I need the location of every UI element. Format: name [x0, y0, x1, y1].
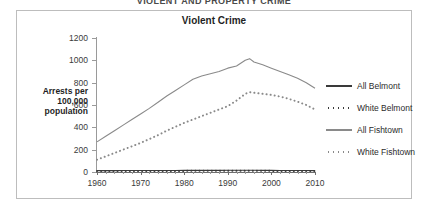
legend-item[interactable]: All Belmont — [326, 78, 426, 94]
x-tick-minor — [210, 172, 211, 174]
series-line — [97, 59, 315, 142]
x-tick-minor — [106, 172, 107, 174]
x-tick-minor — [298, 172, 299, 174]
x-tick-minor — [280, 172, 281, 174]
legend: All BelmontWhite BelmontAll FishtownWhit… — [326, 78, 426, 166]
y-tick-label: 1000 — [48, 56, 88, 64]
x-tick-label: 2000 — [251, 178, 291, 188]
legend-line-sample — [326, 107, 352, 109]
legend-swatch — [326, 126, 352, 134]
y-tick-label: 600 — [48, 101, 88, 109]
x-tick-minor — [245, 172, 246, 174]
y-tick-label: 800 — [48, 79, 88, 87]
legend-line-sample — [326, 151, 352, 153]
legend-label: White Fishtown — [357, 147, 415, 157]
legend-label: White Belmont — [357, 103, 412, 113]
x-tick-minor — [167, 172, 168, 174]
x-tick-major — [228, 172, 229, 175]
y-tick-label: 0 — [48, 168, 88, 176]
x-tick-major — [97, 172, 98, 175]
x-tick-minor — [306, 172, 307, 174]
x-tick-minor — [193, 172, 194, 174]
x-tick-minor — [158, 172, 159, 174]
x-tick-major — [184, 172, 185, 175]
legend-line-sample — [326, 129, 352, 131]
x-tick-minor — [219, 172, 220, 174]
x-tick-label: 1980 — [164, 178, 204, 188]
x-axis-line — [96, 172, 316, 173]
series-lines — [97, 38, 315, 172]
legend-item[interactable]: White Fishtown — [326, 144, 426, 160]
y-tick-label: 1200 — [48, 34, 88, 42]
legend-item[interactable]: All Fishtown — [326, 122, 426, 138]
x-tick-minor — [263, 172, 264, 174]
x-tick-major — [141, 172, 142, 175]
legend-swatch — [326, 148, 352, 156]
series-line — [97, 92, 315, 160]
legend-label: All Fishtown — [357, 125, 403, 135]
x-tick-minor — [289, 172, 290, 174]
legend-line-sample — [326, 85, 352, 87]
x-tick-minor — [149, 172, 150, 174]
figure-root: VIOLENT AND PROPERTY CRIME Violent Crime… — [0, 0, 428, 212]
x-tick-major — [271, 172, 272, 175]
legend-label: All Belmont — [357, 81, 400, 91]
x-tick-minor — [123, 172, 124, 174]
legend-item[interactable]: White Belmont — [326, 100, 426, 116]
legend-swatch — [326, 82, 352, 90]
x-tick-minor — [202, 172, 203, 174]
y-tick-label: 200 — [48, 146, 88, 154]
x-tick-label: 1970 — [121, 178, 161, 188]
x-tick-minor — [114, 172, 115, 174]
x-tick-label: 1960 — [77, 178, 117, 188]
x-tick-minor — [237, 172, 238, 174]
plot-area — [97, 38, 315, 172]
x-tick-minor — [132, 172, 133, 174]
x-tick-minor — [254, 172, 255, 174]
x-tick-major — [315, 172, 316, 175]
legend-swatch — [326, 104, 352, 112]
y-tick-label: 400 — [48, 123, 88, 131]
x-tick-label: 1990 — [208, 178, 248, 188]
x-tick-label: 2010 — [295, 178, 335, 188]
x-tick-minor — [175, 172, 176, 174]
